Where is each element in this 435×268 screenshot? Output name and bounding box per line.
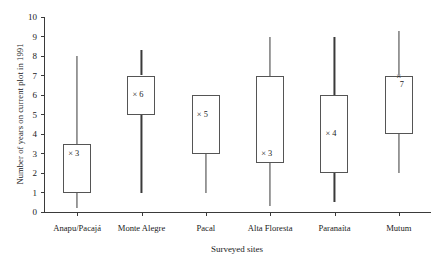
median-label: 7 xyxy=(400,80,404,89)
lower-whisker xyxy=(398,134,399,173)
x-axis-title: Surveyed sites xyxy=(44,244,430,254)
upper-whisker xyxy=(77,56,78,144)
x-axis-tick-label: Alta Floresta xyxy=(248,223,293,233)
y-axis-tick-label: 1 xyxy=(33,186,38,200)
y-axis-tick-label: 7 xyxy=(33,69,38,83)
plot-area: 012345678910× 3Anapu/Pacajá× 6Monte Aleg… xyxy=(44,17,431,213)
box xyxy=(192,95,220,154)
upper-whisker xyxy=(270,37,271,76)
x-axis-tick-mark xyxy=(206,212,207,216)
x-axis-tick-mark xyxy=(270,212,271,216)
lower-whisker xyxy=(205,154,206,193)
box-plot-series: × 4 xyxy=(302,17,366,212)
box-plot-series: ×7 xyxy=(367,17,431,212)
y-axis-tick-label: 8 xyxy=(33,49,38,63)
upper-whisker xyxy=(141,50,142,75)
x-axis-tick-label: Mutum xyxy=(386,223,411,233)
y-axis-tick-label: 10 xyxy=(28,10,37,24)
x-axis-tick-mark xyxy=(142,212,143,216)
x-axis-tick-label: Paranaíta xyxy=(319,223,351,233)
x-axis-tick-mark xyxy=(399,212,400,216)
median-label: × 3 xyxy=(68,149,79,158)
median-label: × 4 xyxy=(325,129,336,138)
box-plot-series: × 5 xyxy=(174,17,238,212)
y-axis-tick-label: 9 xyxy=(33,30,38,44)
lower-whisker xyxy=(77,193,78,209)
y-axis-tick-label: 5 xyxy=(33,108,38,122)
y-axis-tick-label: 6 xyxy=(33,88,38,102)
y-axis-tick-label: 2 xyxy=(33,166,38,180)
box xyxy=(385,76,413,135)
x-axis-tick-mark xyxy=(77,212,78,216)
lower-whisker xyxy=(334,173,335,202)
box-plot-series: × 3 xyxy=(45,17,109,212)
lower-whisker xyxy=(141,115,142,193)
x-axis-tick-label: Anapu/Pacajá xyxy=(53,223,101,233)
median-label: × 6 xyxy=(132,90,143,99)
upper-whisker xyxy=(334,37,335,96)
x-axis-tick-label: Monte Alegre xyxy=(118,223,166,233)
x-axis-tick-mark xyxy=(335,212,336,216)
lower-whisker xyxy=(270,163,271,206)
y-axis-tick-label: 4 xyxy=(33,127,38,141)
box-plot-series: × 3 xyxy=(238,17,302,212)
median-label: × 3 xyxy=(261,149,272,158)
y-axis-tick-label: 3 xyxy=(33,147,38,161)
y-axis-title: Number of years on current plot in 1991 xyxy=(13,8,27,220)
box-plot-series: × 6 xyxy=(109,17,173,212)
x-axis-tick-label: Pacal xyxy=(197,223,216,233)
upper-whisker xyxy=(398,31,399,76)
y-axis-tick-label: 0 xyxy=(33,205,38,219)
box-plot-chart: Number of years on current plot in 1991 … xyxy=(0,0,435,268)
median-label: × 5 xyxy=(197,110,208,119)
